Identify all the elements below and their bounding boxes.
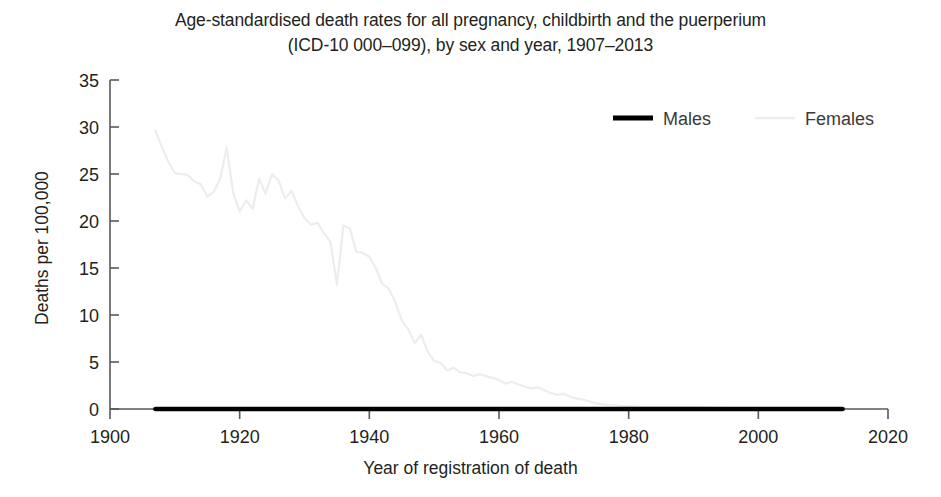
y-axis-label: Deaths per 100,000 [32,148,53,348]
legend-label-females: Females [805,109,874,129]
x-axis-label: Year of registration of death [0,458,941,479]
x-tick-label: 1980 [609,427,649,447]
y-tick-label: 35 [79,71,99,91]
legend-label-males: Males [663,109,711,129]
y-tick-label: 20 [79,212,99,232]
y-tick-label: 5 [89,353,99,373]
data-series-group [155,131,842,409]
y-tick-label: 25 [79,165,99,185]
x-axis-ticks: 1900192019401960198020002020 [90,409,908,447]
y-axis-ticks: 05101520253035 [79,71,119,420]
y-tick-label: 0 [89,400,99,420]
series-line-females [155,131,842,408]
chart-plot-area: 05101520253035 1900192019401960198020002… [0,0,941,497]
chart-legend: MalesFemales [613,109,874,129]
x-tick-label: 2000 [738,427,778,447]
y-tick-label: 10 [79,306,99,326]
x-tick-label: 1960 [479,427,519,447]
x-tick-label: 1920 [220,427,260,447]
chart-page: Age-standardised death rates for all pre… [0,0,941,497]
x-tick-label: 1900 [90,427,130,447]
y-tick-label: 15 [79,259,99,279]
y-tick-label: 30 [79,118,99,138]
x-tick-label: 1940 [349,427,389,447]
x-tick-label: 2020 [868,427,908,447]
